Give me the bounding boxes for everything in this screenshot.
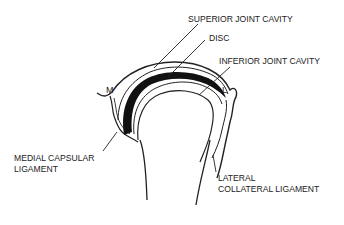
label-medial-capsular-ligament-1: MEDIAL CAPSULAR [14, 153, 94, 163]
leader-disc [168, 40, 205, 77]
label-disc: DISC [209, 33, 230, 43]
inferior-joint-cavity [134, 82, 222, 134]
mandible-neck-medial [140, 140, 147, 200]
condyle [138, 91, 213, 162]
label-medial-capsular-ligament-2: LIGAMENT [14, 164, 59, 174]
leader-medial [103, 132, 117, 151]
label-inferior-joint-cavity: INFERIOR JOINT CAVITY [219, 56, 320, 66]
label-medial-marker: M [106, 85, 114, 95]
label-lateral-marker: L [222, 85, 227, 95]
tmj-diagram: SUPERIOR JOINT CAVITY DISC INFERIOR JOIN… [0, 0, 344, 225]
label-lateral-collateral-ligament-2: COLLATERAL LIGAMENT [218, 184, 320, 194]
label-superior-joint-cavity: SUPERIOR JOINT CAVITY [188, 14, 293, 24]
label-lateral-collateral-ligament-1: LATERAL [218, 173, 256, 183]
leader-lateral [213, 155, 216, 172]
mandible-neck-lateral [196, 140, 210, 205]
